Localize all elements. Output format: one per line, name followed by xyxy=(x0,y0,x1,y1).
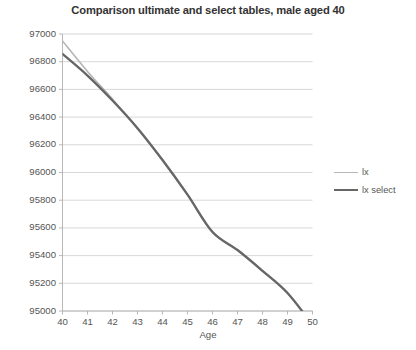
y-axis-tick-label: 96200 xyxy=(8,138,56,149)
x-axis-tick-label: 48 xyxy=(249,316,277,327)
x-axis-tick-label: 44 xyxy=(149,316,177,327)
x-axis-tick-label: 50 xyxy=(299,316,327,327)
x-axis-tick-label: 45 xyxy=(174,316,202,327)
legend-swatch-lx-icon xyxy=(334,172,358,173)
legend-item-lx-select: lx select xyxy=(334,181,396,199)
chart-container: Comparison ultimate and select tables, m… xyxy=(0,0,416,350)
y-axis-tick-label: 96000 xyxy=(8,166,56,177)
y-axis-tick-label: 95400 xyxy=(8,249,56,260)
y-axis-tick-label: 97000 xyxy=(8,28,56,39)
legend-swatch-lx-select-icon xyxy=(334,189,358,191)
x-axis-tick-label: 42 xyxy=(99,316,127,327)
chart-legend: lx lx select xyxy=(334,163,396,199)
x-axis-tick-label: 40 xyxy=(49,316,77,327)
y-axis-tick-label: 96600 xyxy=(8,83,56,94)
x-axis-tick-label: 47 xyxy=(224,316,252,327)
y-axis-tick-label: 95000 xyxy=(8,305,56,316)
x-axis-title: Age xyxy=(0,329,416,340)
x-axis-tick-label: 41 xyxy=(74,316,102,327)
legend-item-lx: lx xyxy=(334,163,396,181)
x-axis-tick-label: 49 xyxy=(274,316,302,327)
y-axis-tick-label: 95600 xyxy=(8,221,56,232)
x-axis-tick-label: 43 xyxy=(124,316,152,327)
y-axis-tick-label: 96800 xyxy=(8,55,56,66)
y-axis-tick-label: 95200 xyxy=(8,277,56,288)
y-axis-tick-label: 95800 xyxy=(8,194,56,205)
legend-label-lx-select: lx select xyxy=(362,185,396,195)
x-axis-tick-label: 46 xyxy=(199,316,227,327)
legend-label-lx: lx xyxy=(362,167,369,177)
y-axis-tick-label: 96400 xyxy=(8,111,56,122)
